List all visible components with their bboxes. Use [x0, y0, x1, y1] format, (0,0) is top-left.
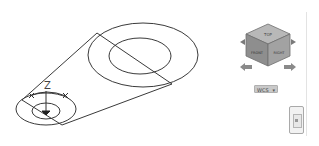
large-diagonal-line [97, 33, 172, 84]
chevron-down-icon: ▾ [272, 86, 275, 94]
compass-right-arrow-icon[interactable] [284, 63, 296, 71]
viewcube-left-rotate-icon[interactable] [240, 39, 245, 45]
compass-left-arrow-icon[interactable] [240, 63, 252, 71]
large-inner-ellipse [109, 38, 171, 74]
viewcube-front-label: FRONT [251, 51, 264, 55]
wcs-menu-button[interactable]: WCS ▾ [254, 85, 278, 93]
lower-tangent-line [62, 84, 172, 125]
navbar-dot-icon [295, 119, 298, 122]
drawing-viewport[interactable]: Z TOP FRONT RIGHT WCS ▾ [0, 0, 319, 146]
ucs-z-label: Z [44, 80, 51, 91]
viewcube-right-label: RIGHT [274, 51, 286, 55]
upper-tangent-line [22, 33, 97, 100]
navigation-bar[interactable] [289, 106, 304, 134]
panel-divider [306, 12, 307, 136]
large-outer-ellipse [88, 23, 198, 87]
viewcube-right-rotate-icon[interactable] [291, 39, 296, 45]
wcs-label: WCS [257, 87, 269, 93]
viewcube-top-label: TOP [263, 32, 273, 37]
